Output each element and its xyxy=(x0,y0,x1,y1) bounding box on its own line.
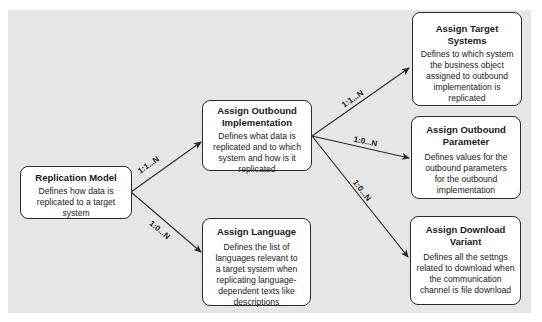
node-title: Assign Outbound Implementation xyxy=(207,105,307,129)
node-assign-outbound-parameter: Assign Outbound Parameter Defines values… xyxy=(411,116,521,199)
node-description: Defines the list of languages relevant t… xyxy=(207,242,306,308)
node-title: Assign Outbound Parameter xyxy=(416,124,516,148)
node-description: Defines values for the outbound paramete… xyxy=(416,152,516,196)
node-description: Defines to which system the business obj… xyxy=(417,49,517,104)
node-assign-target-systems: Assign Target Systems Defines to which s… xyxy=(412,12,522,106)
node-assign-language: Assign Language Defines the list of lang… xyxy=(202,218,311,306)
node-title: Assign Target Systems xyxy=(417,23,517,47)
node-title: Assign Download Variant xyxy=(415,224,516,248)
node-description: Defines what data is replicated and to w… xyxy=(207,131,307,175)
node-title: Assign Language xyxy=(207,226,306,238)
node-assign-download-variant: Assign Download Variant Defines all the … xyxy=(410,216,521,305)
edge-label-rm-outbound-impl: 1:1...N xyxy=(136,154,161,175)
edge-label-impl-target-systems: 1:1...N xyxy=(340,88,365,109)
node-replication-model: Replication Model Defines how data is re… xyxy=(20,166,132,219)
node-description: Defines how data is replicated to a targ… xyxy=(25,186,127,219)
node-assign-outbound-implementation: Assign Outbound Implementation Defines w… xyxy=(202,100,312,171)
node-description: Defines all the settngs related to downl… xyxy=(415,252,516,296)
edge-impl-to-target-systems xyxy=(312,68,409,136)
node-title: Replication Model xyxy=(25,172,127,184)
edge-label-rm-language: 1:0...N xyxy=(148,219,172,241)
edge-rm-to-language xyxy=(131,192,201,252)
